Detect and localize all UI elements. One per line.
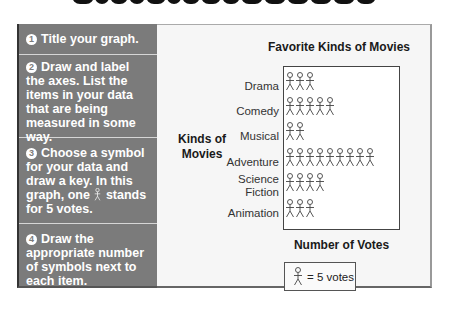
stick-figure-icon (285, 97, 295, 116)
chart-title: Favorite Kinds of Movies (157, 40, 431, 54)
row-label-science-fiction: ScienceFiction (229, 173, 279, 199)
row-label-musical: Musical (240, 130, 279, 143)
y-axis-label: Kinds of Movies (171, 132, 233, 162)
stick-figure-icon (293, 267, 303, 286)
row-label-drama: Drama (244, 80, 279, 93)
step-number-badge: 1 (26, 34, 37, 45)
step-2: 2Draw and label the axes. List the items… (19, 55, 157, 138)
step-number-badge: 4 (26, 234, 37, 245)
stick-figure-icon (365, 148, 375, 167)
stick-figure-icon (93, 188, 102, 201)
stick-figure-icon (325, 148, 335, 167)
row-symbols-animation (285, 199, 315, 219)
step-text: Draw and label the axes. List the items … (26, 60, 136, 144)
stick-figure-icon (335, 148, 345, 167)
row-symbols-drama (285, 72, 315, 92)
stick-figure-icon (305, 173, 315, 192)
step-1: 1Title your graph. (19, 24, 157, 55)
key-label: = 5 votes (307, 271, 354, 283)
stick-figure-icon (315, 97, 325, 116)
pictograph-chart: Favorite Kinds of Movies Kinds of Movies… (157, 24, 431, 286)
stick-figure-icon (325, 97, 335, 116)
step-text: Draw the appropriate number of symbols n… (26, 232, 144, 288)
row-symbols-science-fiction (285, 173, 325, 193)
step-number-badge: 3 (26, 148, 37, 159)
row-label-animation: Animation (228, 207, 279, 220)
stick-figure-icon (305, 148, 315, 167)
chart-key: = 5 votes (284, 262, 356, 291)
stick-figure-icon (315, 173, 325, 192)
stick-figure-icon (305, 97, 315, 116)
step-4: 4Draw the appropriate number of symbols … (19, 224, 157, 293)
stick-figure-icon (285, 122, 295, 141)
stick-figure-icon (305, 72, 315, 91)
row-symbols-adventure (285, 148, 375, 168)
stick-figure-icon (295, 122, 305, 141)
stick-figure-icon (285, 72, 295, 91)
stick-figure-icon (295, 173, 305, 192)
stick-figure-icon (285, 173, 295, 192)
stick-figure-icon (295, 148, 305, 167)
step-text: Title your graph. (41, 32, 139, 46)
step-3: 3Choose a symbol for your data and draw … (19, 138, 157, 224)
step-number-badge: 2 (26, 62, 37, 73)
stick-figure-icon (355, 148, 365, 167)
x-axis-label: Number of Votes (283, 238, 400, 252)
row-symbols-comedy (285, 97, 335, 117)
row-label-adventure: Adventure (227, 156, 279, 169)
stick-figure-icon (285, 199, 295, 218)
row-symbols-musical (285, 122, 305, 142)
stick-figure-icon (295, 97, 305, 116)
stick-figure-icon (285, 148, 295, 167)
steps-panel: 1Title your graph. 2Draw and label the a… (17, 24, 157, 288)
stick-figure-icon (305, 199, 315, 218)
stick-figure-icon (295, 72, 305, 91)
stick-figure-icon (295, 199, 305, 218)
stick-figure-icon (345, 148, 355, 167)
row-label-comedy: Comedy (236, 105, 279, 118)
cutoff-page-title (72, 0, 390, 4)
stick-figure-icon (315, 148, 325, 167)
